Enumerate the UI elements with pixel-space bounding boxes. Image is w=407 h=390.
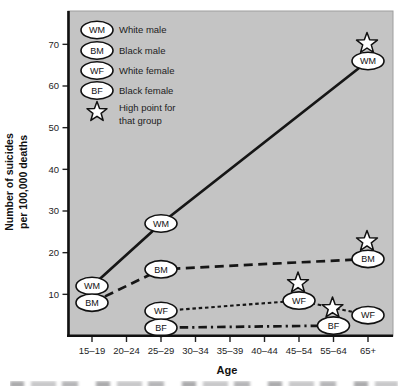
data-point-marker-label: BF bbox=[328, 321, 340, 331]
x-tick-label: 55–64 bbox=[320, 345, 346, 356]
y-tick-label: 40 bbox=[48, 164, 59, 175]
x-tick-label: 35–39 bbox=[217, 345, 243, 356]
legend-marker-label: WF bbox=[90, 66, 104, 76]
y-axis-title-line2: per 100,000 deaths bbox=[17, 135, 29, 229]
legend-item-label: White male bbox=[119, 24, 167, 35]
x-axis-title: Age bbox=[217, 364, 238, 376]
legend-item-label: Black female bbox=[119, 85, 173, 96]
data-point-marker-label: WF bbox=[361, 310, 375, 320]
x-axis: 15–1920–2425–2930–3435–3940–4445–5455–64… bbox=[79, 337, 377, 356]
x-tick-label: 20–24 bbox=[113, 345, 139, 356]
y-tick-label: 20 bbox=[48, 247, 59, 258]
y-tick-label: 50 bbox=[48, 122, 59, 133]
legend-item-label-line1: High point for bbox=[119, 102, 176, 113]
y-axis: 10203040506070 bbox=[48, 39, 68, 300]
suicide-rate-chart: WMWMWMBMBMBMWFWFWFBFBF 10203040506070 15… bbox=[0, 0, 407, 390]
plot-area bbox=[68, 11, 393, 336]
data-point-marker-label: BM bbox=[154, 265, 168, 275]
data-point-marker-label: WM bbox=[153, 219, 169, 229]
data-point-marker-label: BM bbox=[85, 298, 99, 308]
y-tick-label: 60 bbox=[48, 80, 59, 91]
x-tick-label: 15–19 bbox=[79, 345, 105, 356]
data-point-marker-label: WF bbox=[292, 296, 306, 306]
data-point-marker-label: WM bbox=[84, 281, 100, 291]
legend-item-label: Black male bbox=[119, 45, 165, 56]
x-tick-label: 45–54 bbox=[286, 345, 312, 356]
data-point-marker-label: WF bbox=[154, 306, 168, 316]
legend-item-label: White female bbox=[119, 65, 174, 76]
x-tick-label: 40–44 bbox=[251, 345, 277, 356]
chart-canvas: WMWMWMBMBMBMWFWFWFBFBF 10203040506070 15… bbox=[0, 0, 407, 390]
x-tick-label: 25–29 bbox=[148, 345, 174, 356]
data-point-marker-label: BM bbox=[361, 254, 375, 264]
x-tick-label: 30–34 bbox=[182, 345, 208, 356]
x-tick-label: 65+ bbox=[360, 345, 377, 356]
y-tick-label: 70 bbox=[48, 39, 59, 50]
data-point-marker-label: BF bbox=[155, 323, 167, 333]
y-axis-title-line1: Number of suicides bbox=[3, 133, 15, 231]
legend-marker-label: BM bbox=[90, 46, 104, 56]
y-tick-label: 30 bbox=[48, 205, 59, 216]
legend-marker-label: BF bbox=[91, 86, 103, 96]
y-tick-label: 10 bbox=[48, 289, 59, 300]
legend-item-label-line2: that group bbox=[119, 115, 162, 126]
data-point-marker-label: WM bbox=[360, 56, 376, 66]
legend-marker-label: WM bbox=[89, 25, 105, 35]
